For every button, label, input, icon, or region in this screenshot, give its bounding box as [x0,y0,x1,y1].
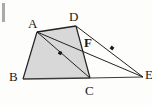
vertex-label-b: B [9,70,18,83]
vertex-label-c: C [85,84,94,97]
tick-on-de-icon [110,46,115,51]
segment-ce [90,77,143,78]
vertex-label-d: D [69,10,78,23]
vertex-label-a: A [28,17,37,30]
quadrilateral-abcd-fill [23,26,90,79]
vertex-label-e: E [145,68,152,81]
segment-bc [23,78,90,79]
vertex-label-f: F [84,36,92,49]
geometry-figure: A D B C E F [0,0,152,105]
